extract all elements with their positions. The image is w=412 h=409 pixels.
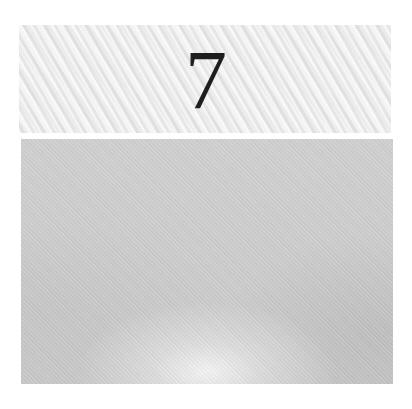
chapter-header-panel: 7 xyxy=(19,25,391,133)
chapter-opener-page: 7 xyxy=(0,0,412,409)
chapter-number: 7 xyxy=(185,39,227,123)
chapter-image-panel xyxy=(21,139,393,384)
